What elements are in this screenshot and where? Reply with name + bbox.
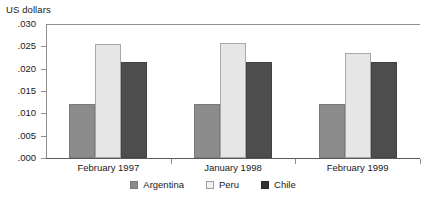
legend-swatch-argentina-icon [130, 181, 138, 189]
bar-chart-figure: US dollars .030.025.020.015.010.005.000 … [0, 0, 426, 206]
legend-item-peru: Peru [206, 180, 239, 190]
y-axis-tick-mark [41, 69, 46, 70]
legend-swatch-chile-icon [261, 181, 269, 189]
y-axis-tick-label: .025 [18, 41, 37, 51]
y-axis-tick-labels: .030.025.020.015.010.005.000 [0, 0, 42, 206]
y-axis-tick-label: .030 [18, 19, 37, 29]
x-axis-group-separator [171, 159, 172, 164]
bar-chile-3 [371, 62, 397, 158]
y-axis-tick-mark [41, 158, 46, 159]
x-axis-group-separator [295, 159, 296, 164]
x-axis-category-label: February 1997 [46, 162, 171, 173]
legend-item-argentina: Argentina [130, 180, 184, 190]
bar-chile-2 [246, 62, 272, 158]
bar-peru-1 [95, 44, 121, 158]
x-axis-baseline [46, 158, 420, 159]
y-axis-tick-label: .020 [18, 64, 37, 74]
legend-label: Peru [219, 180, 239, 190]
bar-peru-3 [345, 53, 371, 158]
legend-label: Argentina [143, 180, 184, 190]
y-axis-tick-label: .005 [18, 131, 37, 141]
bar-argentina-3 [319, 104, 345, 158]
y-axis-tick-mark [41, 46, 46, 47]
chart-legend: ArgentinaPeruChile [0, 180, 426, 190]
y-axis-tick-mark [41, 136, 46, 137]
x-axis-group-separator [420, 159, 421, 164]
legend-item-chile: Chile [261, 180, 296, 190]
x-axis-category-label: February 1999 [295, 162, 420, 173]
bar-argentina-1 [69, 104, 95, 158]
bar-argentina-2 [194, 104, 220, 158]
bar-peru-2 [220, 43, 246, 158]
y-axis-tick-label: .010 [18, 108, 37, 118]
x-axis-category-label: January 1998 [171, 162, 296, 173]
y-axis-tick-label: .000 [18, 153, 37, 163]
plot-area [46, 24, 420, 158]
legend-swatch-peru-icon [206, 181, 214, 189]
bar-chile-1 [121, 62, 147, 158]
y-axis-tick-label: .015 [18, 86, 37, 96]
legend-label: Chile [274, 180, 296, 190]
y-axis-tick-mark [41, 113, 46, 114]
y-axis-tick-mark [41, 91, 46, 92]
